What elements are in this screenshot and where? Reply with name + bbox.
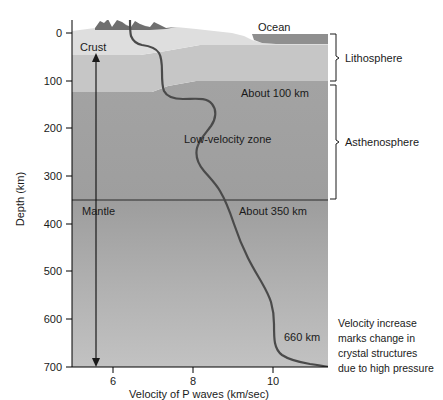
x-tick-label-6: 6	[110, 375, 116, 387]
layer-ocean-water	[252, 34, 328, 44]
annotation-about-100km: About 100 km	[241, 87, 309, 99]
y-tick-label-500: 500	[44, 265, 62, 277]
bracket-label-asthenosphere: Asthenosphere	[345, 136, 419, 148]
note-line-2: marks change in	[338, 332, 415, 344]
y-tick-label-200: 200	[44, 122, 62, 134]
y-tick-label-700: 700	[44, 361, 62, 373]
annotation-660km: 660 km	[284, 331, 320, 343]
y-tick-label-600: 600	[44, 313, 62, 325]
note-line-1: Velocity increase	[338, 317, 417, 329]
y-tick-label-0: 0	[56, 27, 62, 39]
annotation-crust: Crust	[80, 41, 106, 53]
y-tick-label-400: 400	[44, 218, 62, 230]
x-axis-title: Velocity of P waves (km/sec)	[129, 388, 269, 400]
figure-svg: 0 100 200 300 400 500 600 700 6 8 10 Vel…	[0, 0, 443, 400]
x-tick-label-8: 8	[190, 375, 196, 387]
annotation-low-velocity-zone: Low-velocity zone	[184, 133, 271, 145]
annotation-mantle: Mantle	[82, 205, 115, 217]
bracket-label-lithosphere: Lithosphere	[345, 52, 403, 64]
y-tick-label-100: 100	[44, 75, 62, 87]
note-line-3: crystal structures	[338, 347, 417, 359]
note-line-4: due to high pressure	[338, 362, 434, 374]
seismic-velocity-depth-figure: 0 100 200 300 400 500 600 700 6 8 10 Vel…	[0, 0, 443, 400]
annotation-about-350km: About 350 km	[239, 205, 307, 217]
annotation-ocean: Ocean	[258, 21, 290, 33]
earth-layers	[72, 19, 328, 367]
y-tick-label-300: 300	[44, 170, 62, 182]
x-tick-label-10: 10	[267, 375, 279, 387]
y-axis-title: Depth (km)	[14, 172, 26, 226]
